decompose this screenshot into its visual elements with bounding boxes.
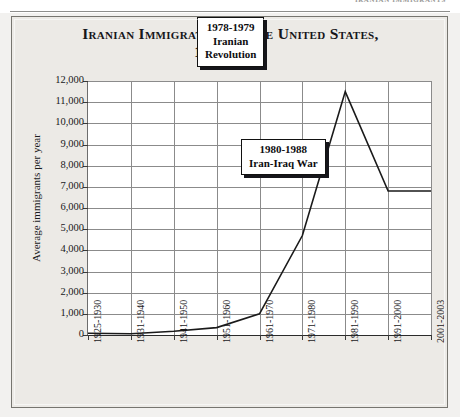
y-tick-label: 9,000 (14, 138, 84, 149)
y-tick-label: 3,000 (14, 265, 84, 276)
y-tick-label: 7,000 (14, 180, 84, 191)
x-tick-mark (88, 335, 89, 340)
series-line-chart (88, 81, 431, 335)
figure-frame: Iranian Immigration to the United States… (11, 16, 448, 408)
y-tick-label: 5,000 (14, 222, 84, 233)
page-root: IRANIAN IMMIGRANTS Iranian Immigration t… (0, 0, 460, 417)
x-tick-mark (431, 335, 432, 340)
annotation-line-3: Revolution (205, 48, 256, 62)
x-tick-mark (260, 335, 261, 340)
y-tick-label: 10,000 (14, 116, 84, 127)
annotation-line-1: 1978-1979 (205, 21, 256, 35)
annotation-iran-iraq-war: 1980-1988 Iran-Iraq War (241, 139, 326, 175)
y-tick-label: 12,000 (14, 74, 84, 85)
y-tick-label: 6,000 (14, 201, 84, 212)
x-tick-mark (388, 335, 389, 340)
annotation-line-1: 1980-1988 (249, 143, 318, 157)
annotation-line-2: Iran-Iraq War (249, 157, 318, 171)
y-axis-title: Average immigrants per year (30, 108, 42, 288)
series-polyline (88, 92, 431, 334)
y-tick-label: 1,000 (14, 307, 84, 318)
annotation-line-2: Iranian (205, 35, 256, 49)
page-header: IRANIAN IMMIGRANTS (0, 0, 460, 13)
x-tick-mark (345, 335, 346, 340)
x-tick-mark (302, 335, 303, 340)
running-head: IRANIAN IMMIGRANTS (355, 0, 446, 3)
x-tick-mark (174, 335, 175, 340)
annotation-iranian-revolution: 1978-1979 Iranian Revolution (197, 17, 264, 67)
y-tick-label: 0 (14, 328, 84, 339)
gridline-vertical (431, 81, 432, 335)
y-tick-label: 8,000 (14, 159, 84, 170)
header-rule (10, 11, 450, 12)
x-tick-mark (131, 335, 132, 340)
y-tick-label: 4,000 (14, 243, 84, 254)
x-tick-mark (217, 335, 218, 340)
y-tick-label: 11,000 (14, 95, 84, 106)
plot-area: 12,00011,00010,0009,0008,0007,0006,0005,… (87, 81, 431, 336)
x-tick-label: 2001-2003 (435, 300, 446, 343)
y-tick-label: 2,000 (14, 286, 84, 297)
